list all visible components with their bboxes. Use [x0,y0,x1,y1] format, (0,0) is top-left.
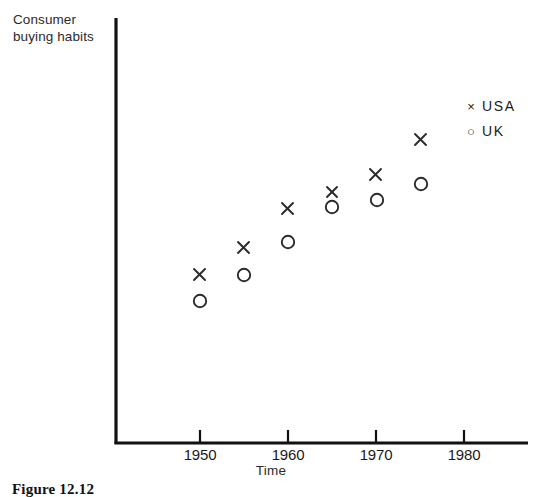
data-point-usa-1950 [194,269,205,280]
legend-entry-usa: × USA [460,98,516,114]
data-point-usa-1975 [415,134,426,145]
x-tick-label-1980: 1980 [434,446,494,463]
data-point-uk-1975 [415,178,427,190]
figure-caption: Figure 12.12 [12,481,94,497]
data-point-usa-1960 [282,203,293,214]
data-point-uk-1955 [238,269,250,281]
x-tick-label-1950: 1950 [170,446,230,463]
x-axis-ticks [200,430,464,443]
axis-lines [115,18,529,444]
data-point-usa-1965 [327,187,337,197]
data-point-usa-1955 [238,242,249,253]
series-usa-markers [194,134,426,280]
x-tick-label-1960: 1960 [258,446,318,463]
series-uk-markers [194,178,427,307]
data-point-uk-1950 [194,295,206,307]
data-point-uk-1970 [371,194,383,206]
legend-label-usa: USA [482,98,516,114]
figure-container: Consumer buying habits [0,0,542,497]
legend-cross-icon: × [460,99,482,114]
data-point-uk-1965 [326,201,338,213]
x-axis-title: Time [0,462,542,479]
legend-entry-uk: ○ UK [460,123,505,139]
scatter-plot-canvas [0,0,542,497]
x-tick-label-1970: 1970 [346,446,406,463]
legend-label-uk: UK [482,123,505,139]
legend-circle-icon: ○ [460,124,482,139]
data-point-uk-1960 [282,236,294,248]
data-point-usa-1970 [370,169,381,180]
